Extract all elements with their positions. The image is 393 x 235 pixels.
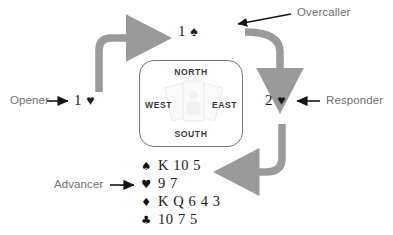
bid-opener-rank: 1 <box>74 92 82 108</box>
label-advancer: Advancer <box>54 178 103 190</box>
spades-icon: ♠ <box>190 24 198 39</box>
hand-row-clubs: ♣ 10 7 5 <box>141 212 221 230</box>
compass-box: NORTH WEST EAST SOUTH <box>139 60 243 147</box>
hand-ranks-hearts: 9 7 <box>158 176 178 191</box>
bid-responder-rank: 2 <box>265 92 273 108</box>
bid-overcaller: 1 ♠ <box>178 23 198 40</box>
hand-ranks-spades: K 10 5 <box>158 158 201 173</box>
advancer-hand: ♠ K 10 5 ♥ 9 7 ♦ K Q 6 4 3 ♣ 10 7 5 <box>141 158 221 230</box>
spades-icon: ♠ <box>141 161 158 173</box>
label-responder: Responder <box>326 94 383 106</box>
hand-row-spades: ♠ K 10 5 <box>141 158 221 176</box>
label-opener: Opener <box>10 94 49 106</box>
hand-row-hearts: ♥ 9 7 <box>141 176 221 194</box>
label-overcaller: Overcaller <box>297 6 350 18</box>
compass-east: EAST <box>212 100 237 110</box>
bidding-diagram: Opener Overcaller Responder Advancer 1 ♥… <box>0 0 393 235</box>
clubs-icon: ♣ <box>141 215 158 227</box>
hearts-icon: ♥ <box>277 93 286 108</box>
compass-north: NORTH <box>140 67 242 77</box>
hand-row-diamonds: ♦ K Q 6 4 3 <box>141 194 221 212</box>
hand-ranks-clubs: 10 7 5 <box>158 212 198 227</box>
hearts-icon: ♥ <box>141 179 158 191</box>
bid-responder: 2 ♥ <box>265 92 286 109</box>
arrow-overcaller-callout <box>238 14 291 24</box>
bid-opener: 1 ♥ <box>74 92 95 109</box>
bid-overcaller-rank: 1 <box>178 23 186 39</box>
diamonds-icon: ♦ <box>141 197 158 209</box>
compass-west: WEST <box>145 100 172 110</box>
compass-south: SOUTH <box>140 129 242 139</box>
hearts-icon: ♥ <box>86 93 95 108</box>
hand-ranks-diamonds: K Q 6 4 3 <box>158 194 221 209</box>
